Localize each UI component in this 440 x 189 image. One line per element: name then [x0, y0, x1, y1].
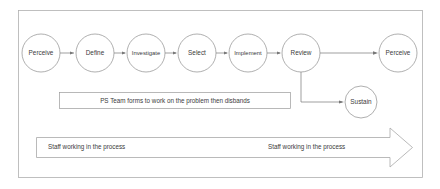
node-perceive-2[interactable]: Perceive: [379, 34, 417, 72]
node-label-review: Review: [291, 49, 312, 56]
node-select[interactable]: Select: [178, 34, 216, 72]
connector-select-implement: [216, 52, 228, 55]
node-label-sustain: Sustain: [350, 98, 372, 105]
connector-review-perceive2: [320, 51, 378, 54]
node-label-investigate: Investigate: [132, 50, 161, 56]
connector-perceive1-define: [60, 52, 74, 55]
diagram-canvas: Perceive Define Investigate Select Imple…: [0, 0, 440, 189]
node-label-select: Select: [188, 49, 206, 56]
connector-implement-review: [267, 52, 281, 55]
node-define[interactable]: Define: [76, 34, 114, 72]
ps-team-callout: PS Team forms to work on the problem the…: [60, 93, 291, 109]
node-label-implement: Implement: [234, 50, 262, 56]
staff-banner-arrow: Staff working in the process Staff worki…: [37, 128, 413, 167]
node-investigate[interactable]: Investigate: [127, 34, 165, 72]
connector-review-sustain: [301, 72, 344, 104]
banner-label-right: Staff working in the process: [268, 143, 345, 151]
node-sustain[interactable]: Sustain: [345, 86, 377, 118]
node-implement[interactable]: Implement: [229, 34, 267, 72]
node-label-perceive-1: Perceive: [29, 49, 54, 56]
ps-team-callout-text: PS Team forms to work on the problem the…: [100, 97, 250, 105]
connector-define-investigate: [114, 52, 126, 55]
node-review[interactable]: Review: [282, 34, 320, 72]
node-label-perceive-2: Perceive: [386, 49, 411, 56]
banner-label-left: Staff working in the process: [48, 143, 125, 151]
node-perceive-1[interactable]: Perceive: [22, 34, 60, 72]
process-flow-diagram: Perceive Define Investigate Select Imple…: [0, 0, 440, 189]
node-label-define: Define: [86, 49, 105, 56]
connector-investigate-select: [165, 52, 177, 55]
